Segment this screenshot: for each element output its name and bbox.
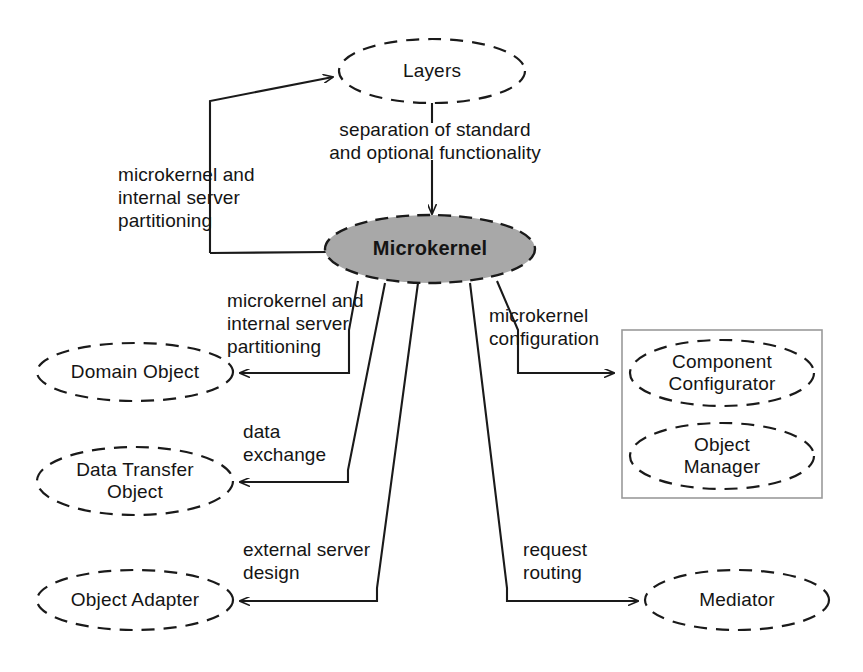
edge-label-to-object-adapter: external server design — [243, 538, 433, 584]
edge-label-to-data-transfer-object: data exchange — [243, 420, 383, 466]
node-domain-object-shape[interactable] — [37, 343, 233, 401]
node-object-manager-shape[interactable] — [630, 423, 814, 489]
edge-label-from-layers: separation of standard and optional func… — [320, 118, 550, 164]
node-layers-shape[interactable] — [339, 39, 525, 103]
edge-label-to-domain-object: microkernel and internal server partitio… — [227, 289, 427, 358]
edge-microkernel-to-layers-stub — [210, 252, 328, 253]
node-data-transfer-object-shape[interactable] — [37, 447, 233, 515]
node-microkernel-shape[interactable] — [325, 215, 535, 283]
microkernel-relationship-diagram: Layers Microkernel Domain Object Data Tr… — [0, 0, 863, 672]
node-object-adapter-shape[interactable] — [37, 570, 233, 630]
edge-label-to-layers: microkernel and internal server partitio… — [118, 163, 318, 232]
edge-label-to-configurator-group: microkernel configuration — [489, 304, 659, 350]
edge-label-to-mediator: request routing — [523, 538, 673, 584]
